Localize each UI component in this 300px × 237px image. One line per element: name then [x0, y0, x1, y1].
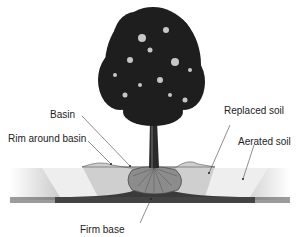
- label-basin: Basin: [50, 109, 75, 120]
- label-firm-base: Firm base: [80, 224, 124, 235]
- tree-trunk: [149, 120, 159, 168]
- tree-planting-diagram: [0, 0, 300, 237]
- label-aerated-soil: Aerated soil: [238, 136, 291, 147]
- label-rim-around-basin: Rim around basin: [8, 133, 86, 144]
- root-ball: [128, 167, 182, 195]
- tree-canopy: [98, 7, 205, 126]
- label-replaced-soil: Replaced soil: [224, 105, 284, 116]
